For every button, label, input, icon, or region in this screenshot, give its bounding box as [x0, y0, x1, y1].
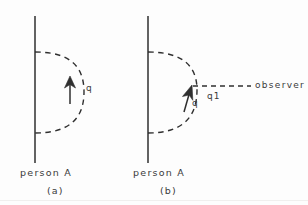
- panel-b-person-label: person A: [133, 168, 185, 178]
- observer-label: observer: [255, 81, 305, 90]
- panel-a-caption: (a): [47, 186, 64, 196]
- panel-b-graphics: [148, 16, 251, 163]
- panel-a-vector-label: q: [86, 84, 92, 93]
- panel-a-person-label: person A: [20, 168, 72, 178]
- panel-b-observer-vector-label: q1: [207, 92, 221, 101]
- figure-canvas: q person A (a) q q1 observer person A (b…: [0, 0, 308, 205]
- panel-a-graphics: [35, 16, 84, 163]
- panel-b-caption: (b): [160, 186, 177, 196]
- panel-a-dashed-arc: [35, 52, 84, 133]
- panel-b-vector-label: q: [192, 99, 198, 108]
- scan-artifact-line: [0, 200, 308, 201]
